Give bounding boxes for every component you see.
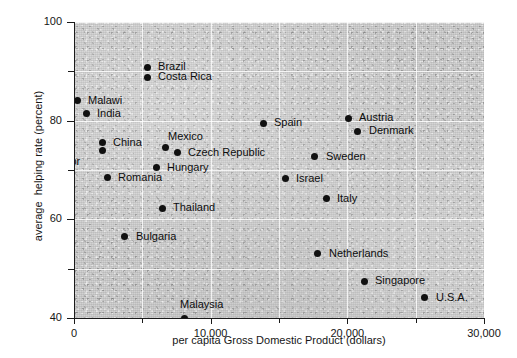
data-point-label: Malawi <box>88 95 122 106</box>
plot-area: BrazilCosta RicaMalawiIndiaChinaEl Salva… <box>74 22 484 318</box>
data-point[interactable] <box>144 74 151 81</box>
data-point[interactable] <box>159 205 166 212</box>
data-point[interactable] <box>282 175 289 182</box>
data-point[interactable] <box>99 139 106 146</box>
data-point[interactable] <box>323 195 330 202</box>
data-point[interactable] <box>162 144 169 151</box>
data-point-label: Thailand <box>173 202 215 213</box>
data-point-label: Italy <box>337 193 357 204</box>
x-tick-mark <box>211 318 212 324</box>
y-tick-mark <box>67 121 74 122</box>
y-axis-line <box>74 22 75 319</box>
data-point-label: Bulgaria <box>136 231 176 242</box>
x-minor-tick-mark <box>142 318 143 323</box>
gridline-horizontal <box>74 71 484 72</box>
x-tick-mark <box>347 318 348 324</box>
data-point-label: Sweden <box>326 151 366 162</box>
gridline-horizontal <box>74 22 484 23</box>
data-point-label: Singapore <box>375 275 425 286</box>
data-point[interactable] <box>121 233 128 240</box>
data-point-label: Romania <box>118 172 162 183</box>
y-axis-title: average helping rate (percent) <box>32 51 44 281</box>
data-point[interactable] <box>354 128 361 135</box>
y-minor-tick-mark <box>68 71 74 72</box>
gridline-vertical <box>211 22 212 318</box>
data-point[interactable] <box>99 147 106 154</box>
data-point-label: Czech Republic <box>188 147 265 158</box>
data-point-label: Malaysia <box>180 299 223 310</box>
y-tick-mark <box>67 219 74 220</box>
gridline-horizontal <box>74 269 484 270</box>
y-tick-mark <box>67 22 74 23</box>
data-point-label: Netherlands <box>329 248 388 259</box>
data-point[interactable] <box>153 164 160 171</box>
scatter-plot-figure: BrazilCosta RicaMalawiIndiaChinaEl Salva… <box>0 0 517 358</box>
data-point[interactable] <box>144 64 151 71</box>
x-tick-mark <box>74 318 75 324</box>
data-point-label: Israel <box>296 173 323 184</box>
data-point[interactable] <box>314 250 321 257</box>
data-point[interactable] <box>83 110 90 117</box>
x-axis-title: per capita Gross Domestic Product (dolla… <box>74 334 484 346</box>
data-point[interactable] <box>104 174 111 181</box>
data-point[interactable] <box>421 294 428 301</box>
gridline-vertical <box>279 22 280 318</box>
data-point[interactable] <box>311 153 318 160</box>
y-tick-label: 100 <box>22 16 62 27</box>
data-point-label: Spain <box>274 117 302 128</box>
data-point-label: Costa Rica <box>158 71 212 82</box>
y-minor-tick-mark <box>68 269 74 270</box>
data-point-label: India <box>97 108 121 119</box>
data-point-label: Hungary <box>167 162 209 173</box>
x-tick-mark <box>484 318 485 324</box>
gridline-horizontal <box>74 219 484 220</box>
x-minor-tick-mark <box>416 318 417 323</box>
data-point-label: China <box>113 137 142 148</box>
data-point[interactable] <box>174 149 181 156</box>
data-point-label: Denmark <box>369 125 414 136</box>
data-point[interactable] <box>345 115 352 122</box>
data-point-label: U.S.A. <box>436 292 468 303</box>
y-tick-label: 40 <box>22 312 62 323</box>
data-point[interactable] <box>361 278 368 285</box>
x-minor-tick-mark <box>279 318 280 323</box>
data-point-label: Mexico <box>168 131 203 142</box>
y-tick-mark <box>67 318 74 319</box>
data-point-label: Austria <box>359 112 393 123</box>
y-minor-tick-mark <box>68 170 74 171</box>
gridline-vertical <box>347 22 348 318</box>
data-point[interactable] <box>260 120 267 127</box>
